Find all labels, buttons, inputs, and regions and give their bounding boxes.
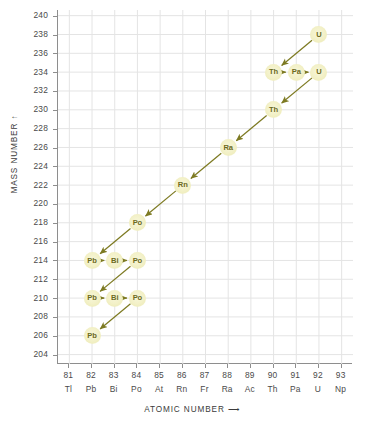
- x-tick-mark: [182, 364, 183, 368]
- y-tick-label: 210: [14, 293, 48, 303]
- x-tick-mark: [295, 364, 296, 368]
- x-tick-mark: [341, 364, 342, 368]
- x-tick-mark: [205, 364, 206, 368]
- x-tick-mark: [318, 364, 319, 368]
- x-tick-mark: [91, 364, 92, 368]
- x-axis-title: ATOMIC NUMBER ⟶: [0, 404, 384, 414]
- y-tick-label: 204: [14, 349, 48, 359]
- y-tick-label: 232: [14, 85, 48, 95]
- nuclide-node[interactable]: Bi: [106, 290, 123, 307]
- y-tick-label: 206: [14, 330, 48, 340]
- y-tick-label: 214: [14, 255, 48, 265]
- decay-chain-chart: MASS NUMBER ↑ ATOMIC NUMBER ⟶ 2402382362…: [0, 0, 384, 425]
- nuclide-node[interactable]: Pa: [288, 64, 305, 81]
- y-tick-label: 208: [14, 311, 48, 321]
- y-tick-label: 222: [14, 180, 48, 190]
- x-tick-mark: [227, 364, 228, 368]
- x-tick-number: 93: [328, 370, 354, 380]
- x-tick-mark: [273, 364, 274, 368]
- nuclide-node[interactable]: Th: [265, 64, 282, 81]
- x-tick-mark: [136, 364, 137, 368]
- x-axis-arrow-icon: ⟶: [228, 405, 240, 414]
- x-tick-mark: [250, 364, 251, 368]
- x-tick-symbol: Np: [328, 384, 354, 394]
- decay-arrows: [58, 10, 353, 364]
- y-tick-label: 236: [14, 48, 48, 58]
- y-tick-label: 216: [14, 236, 48, 246]
- y-axis-title: MASS NUMBER ↑: [10, 75, 19, 235]
- y-tick-label: 220: [14, 198, 48, 208]
- nuclide-node[interactable]: Pb: [84, 290, 101, 307]
- y-tick-label: 228: [14, 123, 48, 133]
- x-tick-mark: [114, 364, 115, 368]
- nuclide-node[interactable]: Ra: [220, 139, 237, 156]
- nuclide-node[interactable]: Rn: [174, 177, 191, 194]
- plot-area: UThPaUThRaRnPoPbBiPoPbBiPoPb: [57, 10, 352, 364]
- nuclide-node[interactable]: Pb: [84, 252, 101, 269]
- y-tick-label: 226: [14, 142, 48, 152]
- nuclide-node[interactable]: Po: [129, 252, 146, 269]
- y-tick-label: 218: [14, 217, 48, 227]
- x-tick-mark: [159, 364, 160, 368]
- y-tick-label: 224: [14, 161, 48, 171]
- x-tick-mark: [68, 364, 69, 368]
- nuclide-node[interactable]: U: [310, 64, 327, 81]
- nuclide-node[interactable]: Pb: [84, 327, 101, 344]
- y-axis-arrow-icon: ↑: [10, 115, 19, 119]
- y-tick-label: 240: [14, 10, 48, 20]
- nuclide-node[interactable]: Po: [129, 290, 146, 307]
- y-tick-label: 212: [14, 274, 48, 284]
- y-tick-label: 230: [14, 104, 48, 114]
- y-tick-label: 234: [14, 67, 48, 77]
- y-tick-label: 238: [14, 29, 48, 39]
- x-axis-title-text: ATOMIC NUMBER: [144, 405, 225, 414]
